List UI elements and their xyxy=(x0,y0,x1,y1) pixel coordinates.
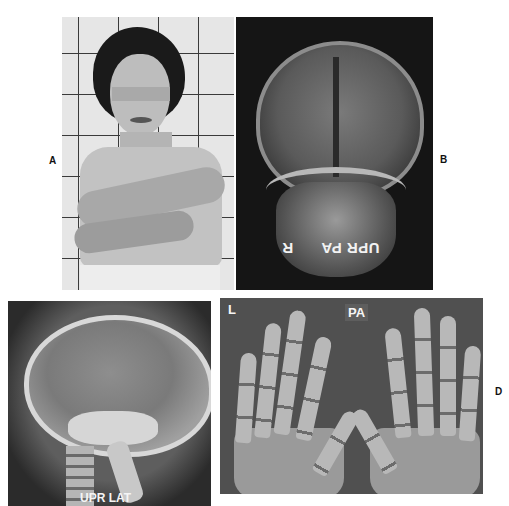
right-finger-4 xyxy=(440,316,456,436)
facial-bones xyxy=(276,182,396,277)
right-finger-3 xyxy=(414,308,434,436)
panel-label-a: A xyxy=(49,155,56,166)
panel-a-clinical-photo xyxy=(62,17,234,290)
skull-base xyxy=(68,411,158,445)
right-finger-5 xyxy=(459,346,482,442)
sagittal-midline xyxy=(333,57,339,177)
panel-d-hands-xray: L PA xyxy=(220,298,483,494)
patient-mouth xyxy=(130,117,152,123)
patient-garment xyxy=(80,265,220,290)
side-marker: L xyxy=(228,302,236,317)
view-marker: PA xyxy=(345,304,368,321)
panel-label-b: B xyxy=(440,154,447,165)
side-marker: R xyxy=(282,240,293,257)
panel-c-lateral-skull-xray: UPR LAT xyxy=(8,301,211,506)
view-marker: UPR LAT xyxy=(80,491,131,505)
right-finger-2 xyxy=(384,327,411,438)
panel-b-pa-skull-xray: R UPR PA xyxy=(236,17,433,290)
eye-mask-bar xyxy=(112,87,170,101)
view-marker: UPR PA xyxy=(321,240,380,257)
panel-label-d: D xyxy=(495,386,502,397)
